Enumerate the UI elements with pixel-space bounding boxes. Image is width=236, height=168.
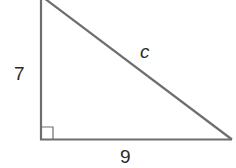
right-triangle-diagram: 7 9 c [0, 0, 236, 168]
right-angle-marker [41, 127, 53, 140]
hypotenuse [44, 0, 232, 140]
triangle [40, 0, 232, 140]
vertical-leg-label: 7 [14, 63, 25, 84]
horizontal-leg-label: 9 [120, 146, 131, 167]
hypotenuse-label: c [140, 41, 150, 62]
